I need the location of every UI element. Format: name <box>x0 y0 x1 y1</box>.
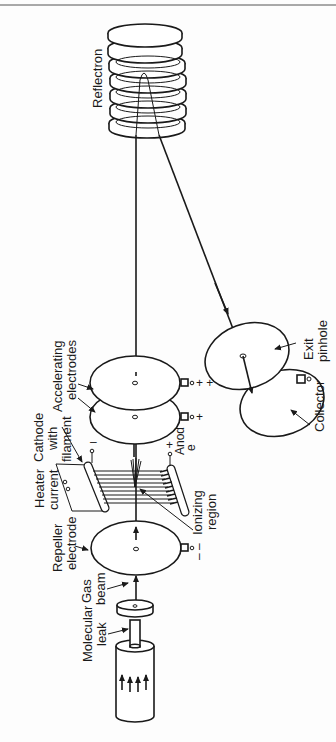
ionizing-assembly: – + <box>56 435 185 512</box>
accelerating-label-1: Accelerating <box>50 340 65 412</box>
repeller-label-1: Repeller <box>50 523 65 572</box>
acc2-sign: + <box>196 410 203 424</box>
leak-label-1: Molecular <box>80 605 95 662</box>
cathode-label-3: filament <box>59 416 74 462</box>
anode-label-2: e <box>184 444 198 451</box>
gas-label-1: Gas <box>79 579 94 603</box>
gas-label-2: beam <box>93 572 108 605</box>
molecular-leak <box>116 600 154 722</box>
leak-pointer <box>108 629 128 634</box>
repeller-electrode <box>91 521 194 575</box>
cathode-label-2: with <box>45 427 60 451</box>
ionizing-label-2: region <box>204 494 219 530</box>
heater-label-1: Heater <box>32 468 47 508</box>
exit-label-1: Exit <box>301 338 316 360</box>
diagram-canvas: Reflectron Exit pinhole Collector + + + … <box>0 0 336 742</box>
cathode-sign: – <box>90 435 97 449</box>
reflectron <box>108 24 186 138</box>
gas-beam-pointer <box>107 583 128 589</box>
repeller-sign: – – <box>192 543 206 560</box>
acc-pointer-2 <box>78 398 95 412</box>
exit-label-2: pinhole <box>315 320 330 362</box>
anode-sign: + <box>166 438 173 452</box>
acc1-sign: + + <box>196 376 213 390</box>
reflectron-label: Reflectron <box>90 49 105 108</box>
return-arrow <box>215 283 228 314</box>
heater-label-2: current <box>46 469 61 510</box>
repeller-label-2: electrode <box>64 517 79 570</box>
collector-label: Collector <box>312 380 327 432</box>
cathode-label-1: Cathode <box>31 413 46 462</box>
ionizing-label-1: Ionizing <box>190 490 205 535</box>
leak-label-2: leak <box>94 622 109 646</box>
accelerating-electrode-1 <box>90 356 194 410</box>
ion-path-from-reflectron <box>159 135 243 355</box>
accelerating-label-2: electrodes <box>64 340 79 400</box>
